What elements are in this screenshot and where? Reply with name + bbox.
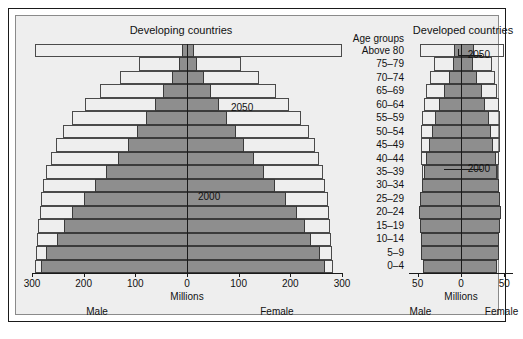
bar-2000-3 — [64, 219, 305, 232]
leader-developed-2000-h — [444, 169, 482, 170]
bar-2000-5 — [84, 192, 287, 205]
leader-developed-2050-v — [458, 49, 459, 56]
bar-2000-13 — [444, 84, 482, 97]
age-group-label: 65–69 — [346, 86, 404, 96]
x-tick — [187, 273, 188, 277]
x-tick-label: 0 — [184, 278, 190, 289]
bar-2000-6 — [95, 179, 275, 192]
x-tick-label: 200 — [282, 278, 299, 289]
x-tick — [504, 273, 505, 277]
x-tick — [135, 273, 136, 277]
figure-inner-frame: Developing countries 3002001000100200300… — [15, 15, 499, 315]
center-axis-line — [461, 44, 462, 273]
panel-developed-countries: Developed countries 50050MillionsMaleFem… — [401, 16, 518, 314]
age-group-label: 50–54 — [346, 127, 404, 137]
x-axis-label: Millions — [170, 291, 203, 302]
bar-2000-4 — [72, 206, 296, 219]
x-tick-label: 50 — [412, 278, 423, 289]
panel-title-developed: Developed countries — [393, 24, 523, 36]
female-axis-label: Female — [485, 306, 518, 317]
x-tick — [239, 273, 240, 277]
leader-developed-2050-h — [458, 55, 482, 56]
x-tick-label: 0 — [458, 278, 464, 289]
x-tick — [290, 273, 291, 277]
age-group-label: 55–59 — [346, 113, 404, 123]
x-axis-label: Millions — [444, 291, 477, 302]
male-axis-label: Male — [410, 306, 432, 317]
x-tick-label: 100 — [127, 278, 144, 289]
bar-2000-0 — [41, 260, 325, 273]
age-group-label: 75–79 — [346, 59, 404, 69]
bar-2000-16 — [182, 44, 194, 57]
bar-2000-1 — [46, 246, 320, 259]
male-axis-label: Male — [86, 306, 108, 317]
age-group-label: Above 80 — [346, 46, 404, 56]
annotation-developing-2000: 2000 — [198, 191, 220, 202]
figure-frame: Developing countries 3002001000100200300… — [8, 8, 506, 322]
age-group-label: 40–44 — [346, 154, 404, 164]
x-tick-label: 100 — [230, 278, 247, 289]
bar-2000-7 — [106, 165, 264, 178]
panel-title-developing: Developing countries — [16, 24, 346, 36]
plot-area-developing: 3002001000100200300MillionsMaleFemale — [32, 44, 342, 273]
plot-area-developed: 50050MillionsMaleFemale — [409, 44, 513, 273]
bar-2000-8 — [118, 152, 254, 165]
x-tick — [461, 273, 462, 277]
age-group-label: 25–29 — [346, 194, 404, 204]
age-group-label: 60–64 — [346, 100, 404, 110]
bar-2000-12 — [439, 98, 485, 111]
age-group-label: 20–24 — [346, 207, 404, 217]
x-tick — [32, 273, 33, 277]
x-tick-label: 50 — [499, 278, 510, 289]
female-axis-label: Female — [260, 306, 293, 317]
age-group-label: 15–19 — [346, 221, 404, 231]
age-group-label: 10–14 — [346, 234, 404, 244]
x-tick-label: 200 — [75, 278, 92, 289]
age-group-label: 70–74 — [346, 73, 404, 83]
age-group-label: 0–4 — [346, 261, 404, 271]
age-group-label: 35–39 — [346, 167, 404, 177]
bar-2000-9 — [128, 138, 245, 151]
x-tick-label: 300 — [24, 278, 41, 289]
x-tick — [84, 273, 85, 277]
annotation-developing-2050: 2050 — [231, 102, 253, 113]
x-tick — [342, 273, 343, 277]
center-axis-line — [187, 44, 188, 273]
x-tick-label: 300 — [334, 278, 351, 289]
panel-developing-countries: Developing countries 3002001000100200300… — [16, 16, 346, 314]
age-group-label: 5–9 — [346, 248, 404, 258]
bar-2000-15 — [179, 57, 198, 70]
bar-2000-14 — [449, 71, 478, 84]
age-group-label-column: Age groups 0–45–910–1415–1920–2425–2930–… — [346, 44, 404, 273]
bar-2000-2 — [57, 233, 311, 246]
age-group-label: 30–34 — [346, 180, 404, 190]
x-tick — [418, 273, 419, 277]
age-group-label: 45–49 — [346, 140, 404, 150]
